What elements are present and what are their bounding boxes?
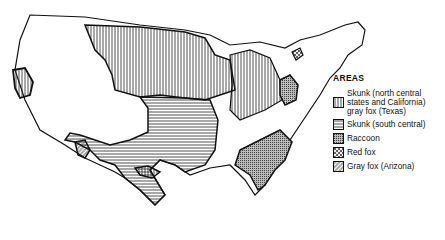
dots-swatch-icon	[333, 147, 344, 158]
legend-title: AREAS	[333, 73, 445, 83]
horizontal-lines-swatch-icon	[333, 119, 344, 130]
stipple-swatch-icon	[333, 133, 344, 144]
legend-label: Skunk (south central)	[347, 120, 425, 129]
diagonal-lines-swatch-icon	[333, 161, 344, 172]
legend-item-skunk-south-central: Skunk (south central)	[333, 119, 445, 130]
legend-item-raccoon: Raccoon	[333, 133, 445, 144]
legend-label: Gray fox (Arizona)	[347, 162, 414, 171]
legend-label: Skunk (north central states and Californ…	[347, 89, 425, 116]
map-legend: AREAS Skunk (north central states and Ca…	[333, 73, 445, 175]
legend-item-gray-fox-arizona: Gray fox (Arizona)	[333, 161, 445, 172]
legend-item-red-fox: Red fox	[333, 147, 445, 158]
legend-item-skunk-north-central: Skunk (north central states and Californ…	[333, 89, 445, 116]
legend-label: Raccoon	[347, 134, 380, 143]
legend-label: Red fox	[347, 148, 376, 157]
vertical-lines-swatch-icon	[333, 97, 344, 108]
